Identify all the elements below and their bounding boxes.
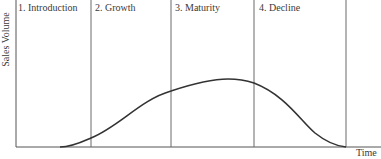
stage-label-maturity: 3. Maturity: [175, 2, 220, 13]
y-axis-label: Sales Volume: [0, 5, 11, 75]
chart-canvas: [0, 0, 381, 159]
stage-label-introduction: 1. Introduction: [18, 2, 77, 13]
stage-label-decline: 4. Decline: [259, 2, 300, 13]
stage-label-growth: 2. Growth: [95, 2, 136, 13]
x-axis-label: Time: [356, 147, 377, 158]
sales-curve: [60, 79, 346, 147]
